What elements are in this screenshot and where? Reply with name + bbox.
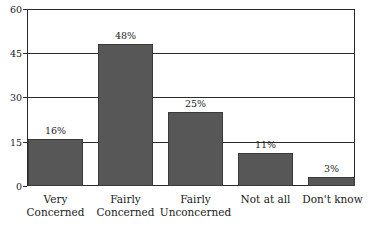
x-axis-label-line2: Concerned [88, 206, 163, 219]
y-axis-tick-mark-0 [23, 186, 27, 187]
x-axis-label-fairly-unconcerned: Fairly Unconcerned [156, 193, 235, 218]
x-axis-label-not-at-all: Not at all [228, 193, 303, 206]
gridline-30 [27, 97, 355, 98]
y-axis-tick-label-45: 45 [2, 49, 22, 59]
x-axis-label-line1: Don't know [295, 193, 370, 206]
x-axis-label-line2: Unconcerned [156, 206, 235, 219]
x-axis-label-very-concerned: Very Concerned [18, 193, 93, 218]
y-axis-tick-label-15: 15 [2, 138, 22, 148]
gridline-45 [27, 53, 355, 54]
bar-chart: 0 15 30 45 60 16% 48% 25% 11% 3% Very Co… [0, 0, 370, 232]
x-axis-label-fairly-concerned: Fairly Concerned [88, 193, 163, 218]
x-axis-label-line1: Fairly [88, 193, 163, 206]
y-axis-tick-label-60: 60 [2, 5, 22, 15]
x-axis-label-dont-know: Don't know [295, 193, 370, 206]
x-axis-label-line1: Fairly [156, 193, 235, 206]
x-axis-label-line2: Concerned [18, 206, 93, 219]
gridline-15 [27, 142, 355, 143]
x-axis-label-line1: Very [18, 193, 93, 206]
y-axis-tick-label-0: 0 [2, 182, 22, 192]
x-axis-label-line1: Not at all [228, 193, 303, 206]
y-axis-tick-label-30: 30 [2, 93, 22, 103]
